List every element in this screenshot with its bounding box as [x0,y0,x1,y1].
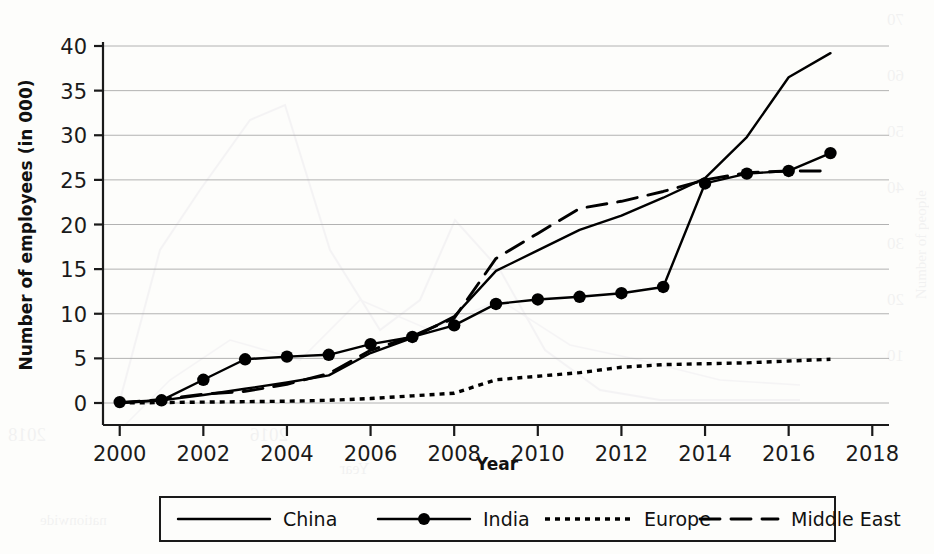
x-tick-label-2010: 2010 [511,442,564,466]
x-axis-title: Year [475,454,519,474]
marker-india-2009 [490,298,502,310]
y-tick-label-10: 10 [60,303,87,327]
marker-india-2005 [323,349,335,361]
y-tick-label-0: 0 [74,392,87,416]
gridlines [103,46,889,403]
x-tick-label-2002: 2002 [177,442,230,466]
x-tick-label-2000: 2000 [93,442,146,466]
x-tick-label-2012: 2012 [595,442,648,466]
y-tick-labels: 0510152025303540 [60,35,87,416]
series-line-china [120,53,831,403]
x-tick-label-2018: 2018 [846,442,899,466]
marker-india-2011 [573,291,585,303]
legend-label-china: China [283,508,337,530]
marker-india-2003 [239,353,251,365]
legend-entries: ChinaIndiaEuropeMiddle East [178,508,901,530]
y-axis-title: Number of employees (in 000) [16,79,36,370]
series-line-india [120,153,831,402]
y-tick-label-15: 15 [60,258,87,282]
x-tick-label-2008: 2008 [427,442,480,466]
data-series-group [114,53,837,408]
y-tick-label-20: 20 [60,214,87,238]
axes [94,42,889,436]
x-tick-label-2006: 2006 [344,442,397,466]
x-tick-label-2004: 2004 [260,442,313,466]
series-line-europe [120,359,831,403]
y-tick-label-5: 5 [74,347,87,371]
x-tick-label-2016: 2016 [762,442,815,466]
legend-marker-india [418,513,430,525]
legend-label-middle-east: Middle East [791,508,901,530]
legend-label-india: India [483,508,530,530]
marker-india-2013 [657,281,669,293]
y-tick-label-25: 25 [60,169,87,193]
x-tick-label-2014: 2014 [678,442,731,466]
marker-india-2017 [824,147,836,159]
chart-figure: Number of people 70 60 50 40 30 20 10 20… [0,0,934,554]
y-tick-label-40: 40 [60,35,87,59]
chart-legend: ChinaIndiaEuropeMiddle East [160,497,901,541]
y-tick-label-30: 30 [60,124,87,148]
line-chart: 2000200220042006200820102012201420162018… [0,0,934,554]
marker-india-2012 [615,287,627,299]
y-tick-label-35: 35 [60,80,87,104]
marker-india-2002 [197,374,209,386]
marker-india-2004 [281,350,293,362]
marker-india-2010 [532,293,544,305]
